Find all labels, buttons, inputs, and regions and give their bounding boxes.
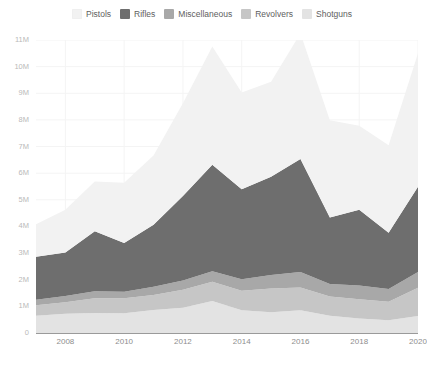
y-axis-tick-label: 2M [19,276,29,284]
x-axis-tick-label: 2018 [350,338,368,346]
legend-swatch-icon [72,9,82,19]
y-axis-tick-label: 11M [15,36,29,44]
legend-label: Pistols [86,10,111,19]
legend-item-shotguns[interactable]: Shotguns [302,9,352,19]
x-axis-tick-label: 2016 [292,338,310,346]
y-axis-tick-label: 3M [19,249,29,257]
y-axis-tick-label: 1M [19,303,29,311]
chart-legend: PistolsRiflesMiscellaneousRevolversShotg… [0,0,424,28]
y-axis-tick-label: 10M [14,63,29,71]
legend-label: Rifles [134,10,155,19]
y-axis-tick-label: 4M [19,223,29,231]
x-axis-tick-label: 2014 [233,338,251,346]
plot-area [36,40,418,333]
x-axis-tick-label: 2008 [56,338,74,346]
legend-swatch-icon [241,9,251,19]
legend-item-miscellaneous[interactable]: Miscellaneous [164,9,232,19]
legend-swatch-icon [120,9,130,19]
y-axis-tick-label: 7M [19,143,29,151]
x-axis-labels: 2008201020122014201620182020 [36,338,418,354]
legend-swatch-icon [164,9,174,19]
legend-item-pistols[interactable]: Pistols [72,9,111,19]
x-axis-line [36,333,418,334]
legend-label: Miscellaneous [178,10,232,19]
x-axis-tick-label: 2010 [115,338,133,346]
chart-canvas [36,40,418,333]
legend-item-rifles[interactable]: Rifles [120,9,155,19]
y-axis-labels: 1M2M3M4M5M6M7M8M9M10M11M0 [0,40,32,333]
y-axis-tick-label: 6M [19,169,29,177]
y-axis-tick-label-zero: 0 [25,329,29,337]
legend-swatch-icon [302,9,312,19]
legend-label: Shotguns [316,10,352,19]
legend-label: Revolvers [255,10,293,19]
y-axis-tick-label: 9M [19,90,29,98]
y-axis-tick-label: 5M [19,196,29,204]
x-axis-tick-label: 2012 [174,338,192,346]
y-axis-tick-label: 8M [19,116,29,124]
x-axis-tick-label: 2020 [409,338,427,346]
legend-item-revolvers[interactable]: Revolvers [241,9,293,19]
